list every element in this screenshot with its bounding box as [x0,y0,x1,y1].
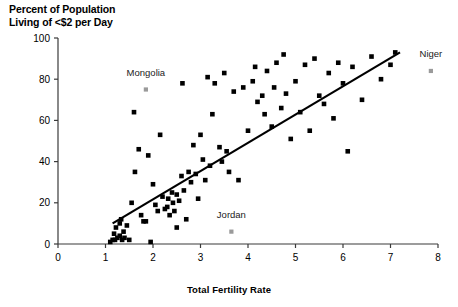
data-point [167,213,172,218]
annotation-label: Niger [420,48,443,59]
data-point [250,79,255,84]
data-point [139,213,144,218]
x-axis-title: Total Fertility Rate [0,284,458,295]
data-point [125,223,130,228]
scatter-plot: 020406080100012345678 MongoliaNigerJorda… [0,0,458,307]
data-point [166,196,171,201]
data-point [262,112,267,117]
data-point [326,71,331,76]
data-point [281,52,286,57]
data-point [172,209,177,214]
data-point [241,85,246,90]
svg-text:4: 4 [245,252,251,263]
data-point [182,188,187,193]
data-point [170,190,175,195]
highlighted-data-point [144,87,148,91]
data-point [255,100,260,105]
data-point [369,54,374,59]
data-point [231,89,236,94]
annotation-label: Jordan [217,209,246,220]
data-point [174,225,179,230]
data-point [201,157,206,162]
data-point [246,128,251,133]
data-point [203,178,208,183]
svg-text:8: 8 [435,252,441,263]
data-point [121,229,126,234]
data-point [379,77,384,82]
data-point [360,98,365,103]
data-point [317,93,322,98]
data-point [122,236,127,241]
data-point [279,106,284,111]
data-point [132,110,137,115]
svg-text:100: 100 [33,33,50,44]
annotations: MongoliaNigerJordan [127,48,443,233]
data-point [222,71,227,76]
data-point [224,149,229,154]
data-point [274,60,279,65]
data-point [260,93,265,98]
data-point [129,201,134,206]
data-point [196,196,201,201]
svg-text:7: 7 [388,252,394,263]
data-point [293,79,298,84]
data-point [146,153,151,158]
svg-text:6: 6 [340,252,346,263]
data-point [212,81,217,86]
svg-text:0: 0 [55,252,61,263]
data-point [336,60,341,65]
data-point [227,170,232,175]
data-point [191,143,196,148]
svg-text:5: 5 [293,252,299,263]
trendline [113,52,400,223]
data-point [189,180,194,185]
data-point [312,56,317,61]
svg-text:60: 60 [39,115,51,126]
svg-text:80: 80 [39,74,51,85]
data-point [322,102,327,107]
data-point [345,149,350,154]
axis-tick-labels: 020406080100012345678 [33,33,441,263]
data-point [179,174,184,179]
data-point [184,217,189,222]
annotation-label: Mongolia [127,67,166,78]
data-point [198,133,203,138]
svg-text:40: 40 [39,156,51,167]
svg-text:1: 1 [103,252,109,263]
data-point [331,116,336,121]
data-point [153,203,158,208]
data-point [205,75,210,80]
data-point [177,198,182,203]
data-point [180,81,185,86]
data-point [253,65,258,70]
data-point [151,182,156,187]
data-point [158,133,163,138]
svg-text:3: 3 [198,252,204,263]
data-point [303,62,308,67]
svg-text:2: 2 [150,252,156,263]
data-point [165,205,170,210]
data-point [174,192,179,197]
data-point [265,69,270,74]
data-point [217,145,222,150]
svg-text:20: 20 [39,197,51,208]
data-point [388,62,393,67]
data-point [307,128,312,133]
data-point [127,238,132,243]
svg-text:0: 0 [44,239,50,250]
highlighted-data-point [429,69,433,73]
data-point [210,112,215,117]
data-point [236,178,241,183]
data-point [155,209,160,214]
data-point [186,170,191,175]
data-point [112,231,117,236]
figure-caption-clipped [8,299,428,307]
data-point [350,65,355,70]
chart-figure: Percent of Population Living of <$2 per … [0,0,458,307]
data-point [136,147,141,152]
data-point [288,137,293,142]
data-point [114,225,119,230]
data-point [144,219,149,224]
data-point [284,91,289,96]
data-point [117,233,122,238]
